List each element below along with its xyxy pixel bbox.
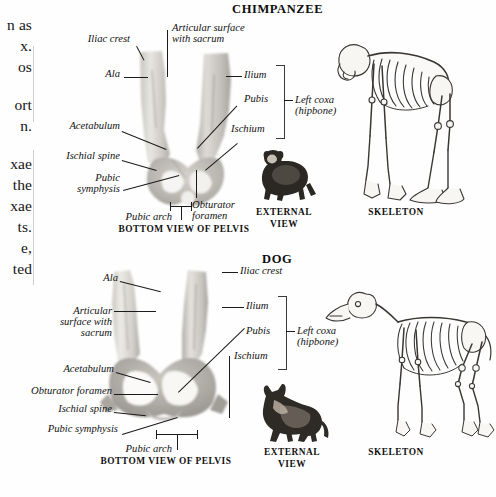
label-pubic-symphysis-dog: Pubic symphysis <box>22 423 118 435</box>
body-text-line: os <box>18 58 32 76</box>
caption-external-view-dog-l1: EXTERNAL <box>252 447 332 457</box>
bracket-stem-dog <box>286 331 295 332</box>
leader-obturator-foramen-chimp <box>196 170 197 198</box>
label-obturator-foramen-chimp-l2: foramen <box>192 210 227 222</box>
caption-bottom-view-pelvis-dog: BOTTOM VIEW OF PELVIS <box>78 456 254 466</box>
label-pubic-symphysis-chimp-l2: symphysis <box>46 183 120 195</box>
label-left-coxa-chimp-l1: Left coxa <box>295 94 334 106</box>
label-left-coxa-dog-l1: Left coxa <box>297 325 336 337</box>
pubic-arch-tick-left-dog <box>156 430 157 439</box>
caption-skeleton-dog: SKELETON <box>348 447 444 457</box>
label-left-coxa-chimp-l2: (hipbone) <box>295 105 336 117</box>
bracket-stem-chimp <box>284 100 293 101</box>
label-articular-surface-chimp-l1: Articular surface <box>172 22 245 34</box>
leader-iliac-crest-dog <box>222 272 238 273</box>
dog-external-view-image <box>254 380 332 446</box>
body-text-line: x. <box>20 37 32 55</box>
label-pubis-chimp: Pubis <box>244 93 268 105</box>
body-text-line: ted <box>13 260 32 278</box>
caption-external-view-dog-l2: VIEW <box>252 459 332 469</box>
leader-articular-dog <box>114 311 156 312</box>
pubic-arch-tick-right-dog <box>197 430 198 439</box>
bracket-left-coxa-chimp <box>276 65 285 139</box>
body-text-line: ort <box>14 96 32 114</box>
label-ischial-spine-dog: Ischial spine <box>30 403 112 415</box>
label-obturator-foramen-chimp-l1: Obturator <box>192 199 235 211</box>
label-obturator-foramen-dog: Obturator foramen <box>2 385 112 397</box>
body-text-line: e, <box>21 239 32 257</box>
leader-ischium-dog <box>229 356 230 418</box>
chimpanzee-pelvis-photo <box>132 50 244 215</box>
label-articular-dog-l1: Articular <box>36 305 112 317</box>
label-acetabulum-chimp: Acetabulum <box>44 120 120 132</box>
label-articular-dog-l3: sacrum <box>36 327 112 339</box>
bracket-left-coxa-dog <box>278 296 287 370</box>
pubic-arch-tick-left-chimp <box>170 202 171 211</box>
panel-heading-chimpanzee: CHIMPANZEE <box>232 2 323 17</box>
label-pubis-dog: Pubis <box>246 325 270 337</box>
label-iliac-crest-dog: Iliac crest <box>240 265 282 277</box>
column-divider <box>33 46 34 122</box>
body-text-line: xae <box>10 155 32 173</box>
caption-external-view-chimp-l1: EXTERNAL <box>246 207 322 217</box>
chimpanzee-skeleton-image <box>330 28 466 206</box>
leader-pubic-arch-chimp <box>181 206 182 220</box>
label-ala-chimp: Ala <box>80 68 120 80</box>
label-pubic-arch-dog: Pubic arch <box>96 443 172 455</box>
label-ilium-chimp: Ilium <box>244 69 266 81</box>
body-text-line: n. <box>20 117 32 135</box>
label-ischial-spine-chimp: Ischial spine <box>42 150 120 162</box>
label-acetabulum-dog: Acetabulum <box>38 363 114 375</box>
leader-ala-chimp <box>124 77 148 78</box>
caption-external-view-chimp-l2: VIEW <box>246 219 322 229</box>
column-divider <box>33 150 34 285</box>
dog-skeleton-image <box>322 278 496 446</box>
body-text-line: the <box>13 176 32 194</box>
label-iliac-crest-chimp: Iliac crest <box>62 33 130 45</box>
body-text-line: ts. <box>17 218 32 236</box>
leader-obturator-foramen-dog <box>114 394 158 395</box>
caption-skeleton-chimp: SKELETON <box>348 207 444 217</box>
anatomy-figure: n as x. os ort n. xae the xae ts. e, ted… <box>0 0 496 497</box>
body-text-line: n as <box>7 16 32 34</box>
label-ilium-dog: Ilium <box>246 300 268 312</box>
body-text-line: xae <box>10 197 32 215</box>
leader-ilium-dog <box>222 307 244 308</box>
label-ala-dog: Ala <box>78 272 118 284</box>
leader-ilium-chimp <box>226 76 242 77</box>
label-ischium-dog: Ischium <box>234 350 268 362</box>
label-pubic-arch-chimp: Pubic arch <box>98 211 172 223</box>
label-articular-dog-l2: surface with <box>22 316 112 328</box>
chimpanzee-external-view-image <box>248 145 320 203</box>
leader-articular-surface-chimp <box>167 30 168 77</box>
label-articular-surface-chimp-l2: with sacrum <box>172 33 224 45</box>
label-left-coxa-dog-l2: (hipbone) <box>297 336 338 348</box>
label-ischium-chimp: Ischium <box>231 123 265 135</box>
label-pubic-symphysis-chimp-l1: Pubic <box>60 172 120 184</box>
leader-pubic-arch-dog <box>177 434 178 450</box>
body-text-column: n as x. os ort n. xae the xae ts. e, ted <box>0 0 34 300</box>
